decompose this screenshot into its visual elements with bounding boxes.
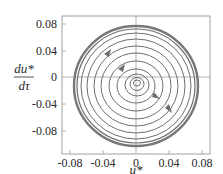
- x-tick-label: -0.04: [91, 156, 116, 170]
- y-axis-label: du* dτ: [14, 61, 34, 93]
- y-tick-label: -0.04: [32, 97, 57, 111]
- y-axis-label-denominator: dτ: [18, 78, 31, 93]
- y-ticks: [62, 24, 66, 131]
- x-tick-label: 0.08: [192, 156, 213, 170]
- phase-portrait-chart: 0.08 0.04 0 -0.04 -0.08 -0.08 -0.04 0 0.…: [0, 0, 223, 174]
- y-tick-labels: 0.08 0.04 0 -0.04 -0.08: [32, 17, 57, 138]
- x-tick-label: -0.08: [58, 156, 83, 170]
- y-axis-label-numerator: du*: [14, 61, 34, 76]
- y-tick-label: 0.04: [36, 44, 57, 58]
- x-tick-label: 0.04: [159, 156, 180, 170]
- x-axis-label: u*: [130, 162, 144, 174]
- arrow-icon: [104, 49, 111, 57]
- y-tick-label: -0.08: [32, 124, 57, 138]
- y-tick-label: 0.08: [36, 17, 57, 31]
- y-tick-label: 0: [51, 70, 57, 84]
